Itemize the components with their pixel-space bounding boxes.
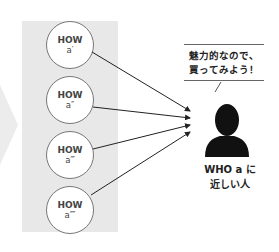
arrow-icon xyxy=(93,125,190,149)
caption-line-2: 近しい人 xyxy=(200,177,260,192)
caption-line-1: WHO a に xyxy=(200,162,260,177)
speech-line-1: 魅力的なので、 xyxy=(184,49,264,63)
person-caption: WHO a に 近しい人 xyxy=(200,162,260,192)
connector-arrows xyxy=(0,0,279,252)
arrow-icon xyxy=(93,107,190,118)
speech-bubble: 魅力的なので、 買ってみよう！ xyxy=(184,44,264,81)
person-silhouette-icon xyxy=(205,104,249,157)
arrow-icon xyxy=(92,52,190,111)
speech-line-2: 買ってみよう！ xyxy=(184,63,264,77)
arrow-icon xyxy=(91,132,190,195)
bubble-tail xyxy=(215,82,221,92)
